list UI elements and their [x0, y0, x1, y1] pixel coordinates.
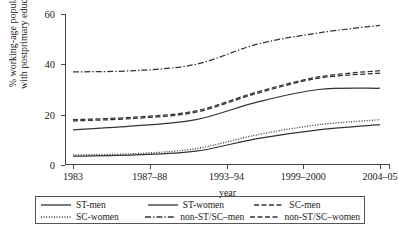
legend-item[interactable]: non-ST/SC–men [144, 212, 248, 222]
legend-row-top: ST-menST-womenSC-men [40, 199, 360, 211]
x-tick-label: 1999–2000 [281, 171, 326, 182]
legend-item[interactable]: ST-women [147, 200, 254, 210]
x-tick-mark [380, 165, 381, 169]
legend-item-label: SC-women [76, 212, 119, 222]
legend-item[interactable]: ST-men [40, 200, 147, 210]
chart-legend: ST-menST-womenSC-men SC-womennon-ST/SC–m… [35, 196, 365, 224]
legend-item[interactable]: non-ST/SC–women [249, 212, 360, 222]
legend-item[interactable]: SC-men [253, 200, 360, 210]
x-tick-mark [73, 165, 74, 169]
y-axis-title-line-1: % working-age population [7, 0, 18, 87]
series-line-st-men [73, 88, 380, 130]
x-tick-mark [389, 165, 390, 169]
series-lines [65, 14, 390, 165]
legend-line-swatch [40, 213, 72, 221]
legend-line-swatch [40, 201, 72, 209]
legend-item[interactable]: SC-women [40, 212, 144, 222]
series-line-non-st-sc-men [73, 25, 380, 72]
legend-item-label: ST-men [76, 200, 106, 210]
y-axis-title: % working-age population with postprimar… [2, 0, 34, 114]
x-tick-mark [150, 165, 151, 169]
series-line-non-st-sc-women [73, 73, 380, 121]
legend-item-label: non-ST/SC–women [285, 212, 360, 222]
y-axis-title-line-2: with postprimary education [18, 0, 29, 89]
x-tick-label: 1993–94 [209, 171, 244, 182]
legend-line-swatch [253, 201, 285, 209]
x-tick-mark [227, 165, 228, 169]
legend-item-label: ST-women [183, 200, 224, 210]
series-line-sc-women [73, 120, 380, 155]
x-tick-label: 1987–88 [132, 171, 167, 182]
x-tick-mark [303, 165, 304, 169]
y-tick-label: 40 [45, 59, 56, 70]
legend-item-label: SC-men [289, 200, 320, 210]
y-tick-mark [61, 165, 65, 166]
legend-item-label: non-ST/SC–men [180, 212, 244, 222]
legend-line-swatch [147, 201, 179, 209]
legend-line-swatch [144, 213, 176, 221]
x-tick-label: 1983 [63, 171, 83, 182]
y-tick-label: 20 [45, 109, 56, 120]
legend-line-swatch [249, 213, 281, 221]
legend-row-bottom: SC-womennon-ST/SC–mennon-ST/SC–women [40, 211, 360, 223]
y-tick-label: 0 [50, 160, 55, 171]
chart-figure: % working-age population with postprimar… [0, 0, 399, 228]
x-tick-label: 2004–05 [363, 171, 398, 182]
series-line-sc-men [73, 71, 380, 120]
y-tick-label: 60 [45, 9, 56, 20]
plot-area: 0204060 19831987–881993–941999–20002004–… [65, 14, 390, 165]
series-line-st-women [73, 125, 380, 156]
